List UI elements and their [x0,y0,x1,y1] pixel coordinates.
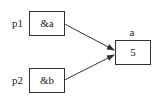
node-label-a: a [130,26,135,38]
node-label-p1: p1 [12,17,23,29]
arrow-p2-to-a [65,55,115,80]
node-value-a: 5 [130,46,136,58]
arrow-p1-to-a [65,24,115,50]
node-label-p2: p2 [12,74,23,86]
node-p1: p1 &a [12,12,65,36]
pointer-diagram: p1 &a p2 &b a 5 [0,0,157,103]
node-value-p2: &b [40,74,55,86]
node-p2: p2 &b [12,69,65,93]
node-a: a 5 [116,26,151,65]
node-value-p1: &a [40,17,54,29]
